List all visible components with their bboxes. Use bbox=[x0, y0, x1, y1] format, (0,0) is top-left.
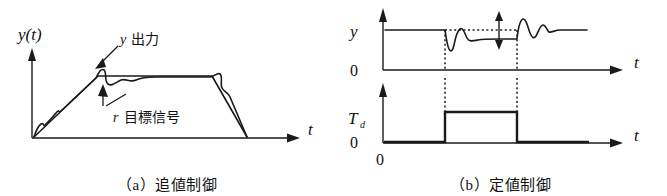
td-origin-label-b: 0 bbox=[376, 151, 384, 168]
y-axis-label-a: y(t) bbox=[16, 25, 42, 44]
td-axis-zero-label-b: 0 bbox=[350, 134, 358, 151]
tracking-control-plot: y(t) t y 出力 bbox=[0, 0, 334, 170]
td-axis-label-b: T bbox=[348, 109, 359, 128]
disturbance-pulse-curve bbox=[384, 112, 589, 142]
output-annotation-symbol: y bbox=[118, 32, 127, 47]
upper-vertical-axis-b bbox=[379, 8, 387, 70]
td-axis-subscript-b: d bbox=[360, 119, 366, 130]
output-annotation-a: y 出力 bbox=[95, 31, 159, 69]
upper-horizontal-axis-b bbox=[383, 66, 623, 75]
y-axis-zero-label-b: 0 bbox=[350, 62, 358, 79]
caption-panel-a: （a）追値制御 bbox=[0, 173, 334, 194]
y-axis-label-b: y bbox=[348, 22, 358, 41]
vertical-axis-a bbox=[28, 48, 36, 138]
reference-annotation-a: r 目標信号 bbox=[98, 84, 180, 125]
control-system-figure: y(t) t y 出力 bbox=[0, 0, 667, 196]
output-annotation-text: 出力 bbox=[131, 31, 159, 47]
constant-value-control-plot: y 0 t bbox=[334, 0, 667, 172]
lower-vertical-axis-b bbox=[379, 83, 387, 143]
upper-t-axis-label-b: t bbox=[634, 53, 640, 72]
reference-annotation-text: 目標信号 bbox=[124, 109, 180, 125]
t-axis-label-a: t bbox=[308, 120, 314, 139]
panel-tracking-control: y(t) t y 出力 bbox=[0, 0, 334, 196]
caption-panel-b: （b）定値制御 bbox=[334, 173, 667, 194]
horizontal-axis-a bbox=[32, 134, 300, 143]
output-signal-curve-a bbox=[34, 69, 247, 137]
output-response-curve-b bbox=[385, 19, 587, 51]
panel-constant-value-control: y 0 t bbox=[334, 0, 667, 196]
reference-annotation-symbol: r bbox=[113, 110, 119, 125]
lower-t-axis-label-b: t bbox=[634, 126, 640, 145]
td-axis-label-group-b: T d bbox=[348, 109, 366, 130]
